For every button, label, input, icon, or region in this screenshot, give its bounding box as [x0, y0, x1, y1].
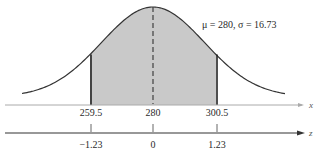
- z-axis-label: z: [308, 128, 313, 138]
- x-axis-label: x: [308, 100, 313, 110]
- x-tick-label: 259.5: [80, 107, 103, 118]
- x-axis-arrow-icon: [298, 103, 304, 107]
- z-axis-arrow-icon: [297, 131, 305, 136]
- x-tick-label: 280: [146, 107, 161, 118]
- z-tick-label: 1.23: [208, 139, 226, 150]
- z-tick-label: 0: [151, 139, 156, 150]
- normal-distribution-chart: x 259.5 280 300.5 z −1.23 0 1.23 μ = 280…: [0, 0, 320, 159]
- distribution-parameters-annotation: μ = 280, σ = 16.73: [202, 19, 277, 30]
- z-tick-label: −1.23: [79, 139, 102, 150]
- x-tick-label: 300.5: [206, 107, 229, 118]
